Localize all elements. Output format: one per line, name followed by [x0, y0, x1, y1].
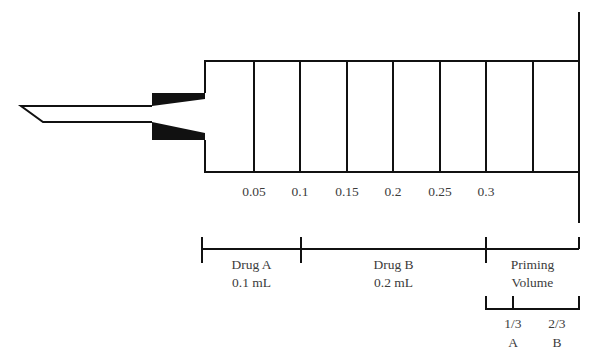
priming-label: Priming	[486, 257, 579, 273]
drug-a-volume: 0.1 mL	[202, 275, 301, 291]
priming-bracket	[486, 296, 579, 309]
scale-label-0.15: 0.15	[328, 184, 366, 200]
priming-volume-label: Volume	[486, 275, 579, 291]
scale-label-0.1: 0.1	[282, 184, 318, 200]
needle-hub	[152, 93, 205, 140]
scale-label-0.25: 0.25	[421, 184, 459, 200]
priming-drug-b: B	[542, 335, 572, 351]
scale-label-0.3: 0.3	[468, 184, 504, 200]
drug-a-label: Drug A	[202, 257, 301, 273]
priming-fraction-b: 2/3	[542, 316, 572, 332]
scale-label-0.2: 0.2	[375, 184, 411, 200]
drug-b-label: Drug B	[301, 257, 486, 273]
priming-fraction-a: 1/3	[498, 316, 528, 332]
priming-drug-a: A	[498, 335, 528, 351]
barrel-graduations	[254, 61, 533, 172]
drug-b-volume: 0.2 mL	[301, 275, 486, 291]
needle-icon	[21, 106, 152, 122]
scale-label-0.05: 0.05	[236, 184, 272, 200]
syringe-diagram	[0, 0, 597, 360]
